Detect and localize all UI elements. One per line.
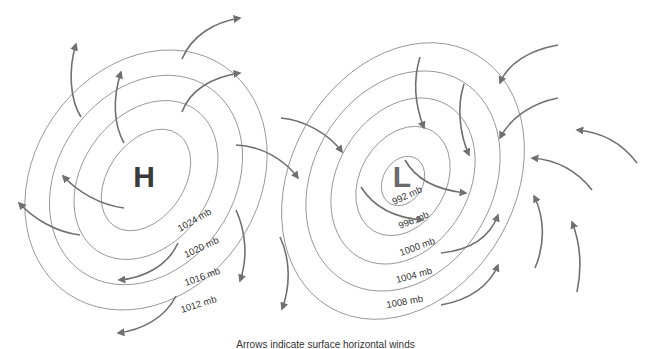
- isobar-label-1012: 1012 mb: [179, 293, 218, 315]
- isobar-label-996: 996 mb: [397, 209, 431, 231]
- wind-arrow-icon: [63, 176, 124, 208]
- isobar-label-1000: 1000 mb: [398, 235, 437, 258]
- diagram-caption: Arrows indicate surface horizontal winds: [0, 339, 651, 349]
- wind-arrow-icon: [119, 243, 178, 280]
- wind-arrow-icon: [182, 18, 240, 59]
- pressure-systems-diagram: H 1024 mb 1020 mb 1016 mb 1012 mb: [0, 0, 651, 349]
- isobar-label-1024: 1024 mb: [176, 206, 214, 234]
- isobar-label-1008: 1008 mb: [385, 293, 423, 310]
- wind-arrow-icon: [71, 44, 81, 117]
- wind-arrow-icon: [416, 57, 424, 128]
- wind-arrow-icon: [500, 98, 558, 138]
- wind-arrow-icon: [534, 196, 542, 268]
- wind-arrow-icon: [500, 45, 558, 83]
- wind-arrow-icon: [441, 265, 498, 305]
- wind-arrow-icon: [572, 222, 580, 292]
- isobar-label-1020: 1020 mb: [182, 234, 220, 260]
- high-wind-arrows: [19, 18, 342, 333]
- wind-arrow-icon: [115, 72, 124, 143]
- wind-arrow-icon: [577, 130, 637, 163]
- isobar-1012: [0, 3, 317, 349]
- wind-arrow-icon: [460, 84, 469, 155]
- high-pressure-system: H 1024 mb 1020 mb 1016 mb 1012 mb: [0, 3, 342, 349]
- high-isobars: [0, 3, 317, 349]
- wind-arrow-icon: [441, 215, 498, 253]
- low-pressure-system: L 992 mb 996 mb 1000 mb 1004 mb 1008 mb: [233, 0, 637, 349]
- isobar-label-1016: 1016 mb: [183, 265, 222, 288]
- wind-arrow-icon: [280, 237, 288, 309]
- wind-arrow-icon: [532, 158, 592, 190]
- wind-arrow-icon: [281, 118, 342, 152]
- high-center-label: H: [133, 160, 155, 193]
- isobar-label-1004: 1004 mb: [395, 265, 434, 285]
